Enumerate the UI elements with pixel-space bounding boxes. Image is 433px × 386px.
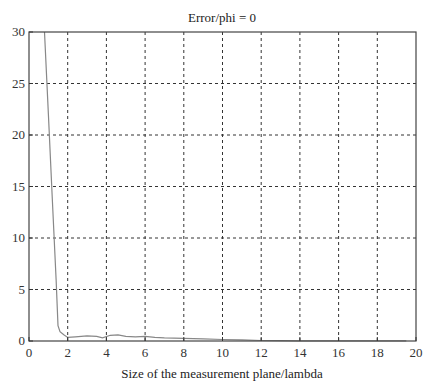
x-tick-label: 8 [181, 345, 188, 360]
y-tick-label: 10 [12, 230, 25, 245]
chart-title: Error/phi = 0 [188, 10, 256, 25]
x-axis-label: Size of the measurement plane/lambda [121, 366, 323, 381]
x-tick-label: 16 [332, 345, 346, 360]
x-tick-label: 2 [64, 345, 71, 360]
x-tick-label: 6 [142, 345, 149, 360]
grid-lines [29, 32, 416, 341]
series-layer [45, 32, 407, 341]
x-tick-label: 14 [293, 345, 307, 360]
y-tick-label: 5 [19, 282, 26, 297]
x-tick-label: 0 [26, 345, 33, 360]
x-tick-label: 18 [371, 345, 384, 360]
x-tick-label: 4 [103, 345, 110, 360]
x-tick-label: 20 [410, 345, 423, 360]
y-tick-label: 0 [19, 333, 26, 348]
y-tick-label: 15 [12, 179, 25, 194]
y-tick-label: 25 [12, 76, 25, 91]
y-tick-label: 30 [12, 24, 25, 39]
line-chart: 02468101214161820 051015202530 Error/phi… [0, 0, 433, 386]
y-axis-ticks: 051015202530 [12, 24, 33, 348]
x-tick-label: 10 [216, 345, 229, 360]
x-tick-label: 12 [255, 345, 268, 360]
series-line [45, 32, 407, 341]
y-tick-label: 20 [12, 127, 25, 142]
